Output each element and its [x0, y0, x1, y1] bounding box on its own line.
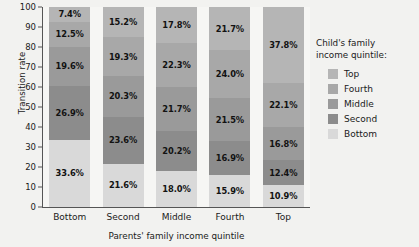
y-tick-label: 80 [10, 43, 36, 52]
legend-item[interactable]: Top [316, 69, 416, 79]
legend-item[interactable]: Bottom [316, 129, 416, 139]
bar-segment-label: 21.6% [109, 180, 137, 190]
bar-segment-label: 12.4% [269, 168, 297, 178]
x-tick-label: Fourth [215, 212, 244, 222]
y-tick-label: 100 [10, 3, 36, 12]
y-tick-label: 30 [10, 143, 36, 152]
bar-segment[interactable]: 26.9% [49, 86, 90, 140]
x-axis-title: Parents' family income quintile [43, 231, 310, 241]
bar-stack[interactable]: 37.8%22.1%16.8%12.4%10.9% [263, 7, 304, 207]
bar-segment[interactable]: 12.5% [49, 22, 90, 47]
bar-segment[interactable]: 33.6% [49, 140, 90, 207]
legend: Child's family income quintile: TopFourt… [316, 38, 416, 144]
y-tick-label: 50 [10, 103, 36, 112]
legend-label: Second [344, 114, 377, 124]
y-tick-label: 60 [10, 83, 36, 92]
bar-segment[interactable]: 19.3% [103, 37, 144, 76]
bar-segment[interactable]: 16.8% [263, 127, 304, 161]
bar-segment-label: 22.1% [269, 100, 297, 110]
bar-segment[interactable]: 24.0% [209, 50, 250, 98]
bar-segment[interactable]: 23.6% [103, 117, 144, 164]
bar-segment[interactable]: 19.6% [49, 47, 90, 86]
bar-segment-label: 16.8% [269, 139, 297, 149]
bar-segment-label: 21.7% [216, 24, 244, 34]
legend-swatch [328, 114, 338, 124]
y-tick-label: 40 [10, 123, 36, 132]
bar-segment-label: 21.7% [162, 104, 190, 114]
bar-segment[interactable]: 21.7% [156, 87, 197, 130]
legend-title: Child's family income quintile: [316, 38, 408, 62]
bar-segment[interactable]: 7.4% [49, 7, 90, 22]
legend-label: Top [344, 69, 359, 79]
bar-segment-label: 16.9% [216, 153, 244, 163]
bar-segment[interactable]: 20.3% [103, 76, 144, 117]
x-tick-label: Middle [162, 212, 192, 222]
y-tick-label: 70 [10, 63, 36, 72]
y-tick-label: 0 [10, 203, 36, 212]
bar-segment-label: 21.5% [216, 115, 244, 125]
legend-item[interactable]: Fourth [316, 84, 416, 94]
bar-segment-label: 15.9% [216, 186, 244, 196]
bar-segment-label: 26.9% [56, 108, 84, 118]
plot-area: 7.4%12.5%19.6%26.9%33.6%15.2%19.3%20.3%2… [43, 7, 310, 207]
bar-segment-label: 10.9% [269, 191, 297, 201]
bar-segment-label: 19.3% [109, 52, 137, 62]
bar-segment-label: 7.4% [58, 9, 81, 19]
bar-segment[interactable]: 15.2% [103, 7, 144, 37]
bar-segment[interactable]: 10.9% [263, 185, 304, 207]
x-tick-label: Second [107, 212, 140, 222]
legend-label: Bottom [344, 129, 377, 139]
bar-segment-label: 12.5% [56, 29, 84, 39]
bar-segment-label: 20.2% [162, 146, 190, 156]
bar-stack[interactable]: 7.4%12.5%19.6%26.9%33.6% [49, 7, 90, 207]
bar-segment-label: 22.3% [162, 60, 190, 70]
bar-segment[interactable]: 37.8% [263, 7, 304, 83]
bar-segment-label: 20.3% [109, 91, 137, 101]
bar-segment-label: 37.8% [269, 40, 297, 50]
legend-item[interactable]: Second [316, 114, 416, 124]
bar-stack[interactable]: 15.2%19.3%20.3%23.6%21.6% [103, 7, 144, 207]
bar-segment[interactable]: 21.6% [103, 164, 144, 207]
bar-segment[interactable]: 21.5% [209, 98, 250, 141]
legend-label: Middle [344, 99, 374, 109]
legend-swatch [328, 129, 338, 139]
bar-segment[interactable]: 21.7% [209, 7, 250, 50]
legend-item[interactable]: Middle [316, 99, 416, 109]
bar-segment[interactable]: 12.4% [263, 160, 304, 185]
bar-segment[interactable]: 18.0% [156, 171, 197, 207]
bar-stack[interactable]: 21.7%24.0%21.5%16.9%15.9% [209, 7, 250, 207]
y-tick-label: 20 [10, 163, 36, 172]
bar-segment-label: 24.0% [216, 69, 244, 79]
x-tick-label: Bottom [53, 212, 86, 222]
legend-swatch [328, 84, 338, 94]
bar-segment[interactable]: 16.9% [209, 141, 250, 175]
legend-label: Fourth [344, 84, 373, 94]
bar-segment[interactable]: 17.8% [156, 7, 197, 43]
x-tick-label: Top [276, 212, 291, 222]
bar-stack[interactable]: 17.8%22.3%21.7%20.2%18.0% [156, 7, 197, 207]
bar-segment[interactable]: 15.9% [209, 175, 250, 207]
legend-items: TopFourthMiddleSecondBottom [316, 69, 416, 139]
bar-segment-label: 17.8% [162, 20, 190, 30]
legend-swatch [328, 99, 338, 109]
legend-swatch [328, 69, 338, 79]
bar-segment-label: 33.6% [56, 168, 84, 178]
bar-segment-label: 15.2% [109, 17, 137, 27]
bar-segment-label: 19.6% [56, 61, 84, 71]
x-axis-line [42, 207, 310, 208]
bar-segment[interactable]: 20.2% [156, 131, 197, 171]
chart-figure: Transition rate 0102030405060708090100 7… [0, 0, 419, 247]
y-tick-label: 90 [10, 23, 36, 32]
bar-segment[interactable]: 22.3% [156, 43, 197, 88]
bar-segment[interactable]: 22.1% [263, 83, 304, 127]
y-axis-ticks: 0102030405060708090100 [10, 7, 42, 207]
y-tick-label: 10 [10, 183, 36, 192]
bar-segment-label: 23.6% [109, 135, 137, 145]
bar-segment-label: 18.0% [162, 184, 190, 194]
